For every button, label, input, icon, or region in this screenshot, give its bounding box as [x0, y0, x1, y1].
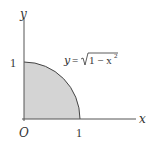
- x-axis-label: x: [139, 112, 146, 126]
- equation-lhs: y: [63, 54, 71, 67]
- y-axis-label: y: [19, 7, 27, 21]
- equation-equals: =: [72, 54, 78, 66]
- curve-equation: y = 1 − x 2: [63, 52, 118, 67]
- x-tick-label: 1: [76, 126, 82, 140]
- y-tick-label: 1: [10, 56, 16, 70]
- shaded-region: [24, 62, 80, 119]
- quarter-circle-diagram: y x O 1 1 y = 1 − x 2: [0, 0, 152, 144]
- origin-label: O: [19, 126, 29, 140]
- equation-radicand: 1 − x: [89, 54, 112, 66]
- equation-exponent: 2: [114, 52, 118, 60]
